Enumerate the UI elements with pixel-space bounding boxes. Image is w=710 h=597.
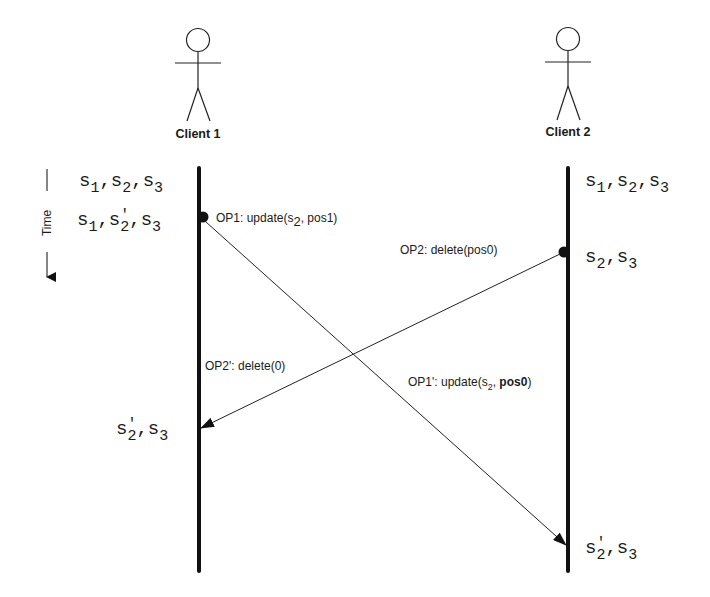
- op1-prime-label: OP1': update(s2, pos0): [408, 375, 531, 392]
- op1-label: OP1: update(s2, pos1): [216, 211, 337, 229]
- op2-event-dot: [559, 247, 570, 258]
- client2-state-3: s'2,s3: [585, 535, 637, 564]
- actor-name: Client 2: [545, 125, 590, 139]
- actor-client-1: Client 1: [175, 29, 221, 142]
- client2-state-2: s2,s3: [585, 246, 637, 273]
- op2-prime-label: OP2': delete(0): [205, 359, 285, 373]
- op2-arrow: [201, 254, 560, 428]
- sequence-diagram: Client 1 Client 2 Time OP1: update(s2, p…: [0, 0, 710, 597]
- op2-label: OP2: delete(pos0): [400, 243, 497, 257]
- stick-figure-icon: [545, 28, 591, 121]
- client1-state-2: s1,s'2,s3: [77, 207, 161, 236]
- time-label: Time: [40, 210, 54, 237]
- stick-figure-icon: [175, 29, 221, 122]
- client2-state-1: s1,s2,s3: [585, 170, 669, 197]
- time-axis: Time: [40, 169, 54, 277]
- client1-state-3: s'2,s3: [116, 416, 168, 445]
- actor-client-2: Client 2: [545, 28, 591, 140]
- actor-name: Client 1: [175, 127, 220, 141]
- client1-state-1: s1,s2,s3: [79, 170, 163, 197]
- op1-event-dot: [198, 212, 209, 223]
